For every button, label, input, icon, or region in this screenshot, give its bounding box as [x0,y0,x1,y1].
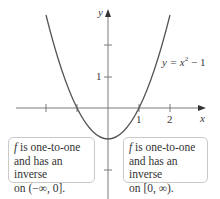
right-box-line2: and has an inverse [129,155,202,182]
x-axis-arrow-icon [198,105,206,111]
y-axis-label: y [98,7,103,18]
right-annotation-box: f is one-to-one and has an inverse on [0… [123,137,208,183]
right-box-line1: is one-to-one [132,141,195,153]
x-tick-label-1: 1 [136,114,142,125]
right-box-line3: on [0, ∞). [129,182,202,196]
left-box-line3: on (−∞, 0]. [14,182,89,196]
y-tick-label-1: 1 [96,71,102,82]
left-box-line2: and has an inverse [14,155,89,182]
curve-equation-label: y = x2 − 1 [162,56,205,68]
y-axis-arrow-icon [105,9,111,17]
left-box-line1: is one-to-one [17,141,80,153]
left-annotation-box: f is one-to-one and has an inverse on (−… [8,137,95,183]
curve-eq-prefix: y = x [162,56,185,68]
x-tick-label-2: 2 [167,114,173,125]
x-axis-label: x [200,113,205,124]
curve-eq-suffix: − 1 [188,56,205,68]
